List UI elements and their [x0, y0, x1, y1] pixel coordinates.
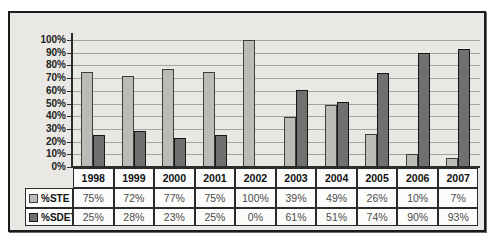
value-cell-ste-1998: 75% [73, 188, 114, 208]
year-cell-1998: 1998 [73, 168, 114, 188]
bar-sdet-2004 [337, 102, 349, 167]
value-cell-ste-1999: 72% [114, 188, 155, 208]
bar-sdet-2001 [215, 135, 227, 167]
legend-swatch-ste [29, 194, 38, 203]
bar-sdet-2006 [418, 53, 430, 167]
bar-sdet-2000 [174, 138, 186, 167]
bar-sdet-2005 [377, 73, 389, 167]
year-cell-1999: 1999 [114, 168, 155, 188]
value-cell-sdet-2005: 74% [357, 208, 398, 226]
y-tick-label: 20% [18, 136, 66, 148]
legend-label: %SDET [41, 212, 73, 223]
legend-label: %STE [41, 193, 69, 204]
bar-ste-1999 [122, 76, 134, 167]
bar-ste-2002 [243, 40, 255, 167]
y-axis-line [71, 33, 73, 168]
bar-ste-2003 [284, 117, 296, 167]
y-tick-label: 10% [18, 148, 66, 160]
value-cell-sdet-2002: 0% [235, 208, 276, 226]
year-cell-2002: 2002 [235, 168, 276, 188]
year-cell-2004: 2004 [316, 168, 357, 188]
year-cell-2001: 2001 [195, 168, 236, 188]
year-cell-2005: 2005 [357, 168, 398, 188]
y-tick-label: 60% [18, 85, 66, 97]
legend-swatch-sdet [29, 213, 38, 222]
value-cell-sdet-2007: 93% [438, 208, 479, 226]
year-cell-2003: 2003 [276, 168, 317, 188]
chart-frame: 100%90%80%70%60%50%40%30%20%10%0%1998199… [8, 11, 486, 232]
value-cell-ste-2000: 77% [154, 188, 195, 208]
gridline [72, 40, 480, 41]
year-cell-2006: 2006 [397, 168, 438, 188]
y-tick-label: 40% [18, 110, 66, 122]
bar-sdet-1998 [93, 135, 105, 167]
value-cell-sdet-1998: 25% [73, 208, 114, 226]
bar-ste-2001 [203, 72, 215, 167]
value-cell-ste-2001: 75% [195, 188, 236, 208]
scanned-excel-chart: 100%90%80%70%60%50%40%30%20%10%0%1998199… [0, 0, 497, 245]
y-tick-label: 50% [18, 98, 66, 110]
y-tick-label: 90% [18, 47, 66, 59]
value-cell-sdet-2004: 51% [316, 208, 357, 226]
value-cell-ste-2002: 100% [235, 188, 276, 208]
value-cell-ste-2007: 7% [438, 188, 479, 208]
y-tick-label: 100% [18, 34, 66, 46]
value-cell-sdet-2003: 61% [276, 208, 317, 226]
y-tick-label: 70% [18, 72, 66, 84]
value-cell-sdet-2000: 23% [154, 208, 195, 226]
value-cell-sdet-2006: 90% [397, 208, 438, 226]
year-cell-2000: 2000 [154, 168, 195, 188]
bar-sdet-2007 [458, 49, 470, 167]
bar-ste-1998 [81, 72, 93, 167]
legend-ste: %STE [25, 188, 73, 208]
y-tick-label: 80% [18, 59, 66, 71]
value-cell-ste-2005: 26% [357, 188, 398, 208]
bar-sdet-2003 [296, 90, 308, 167]
y-tick-label: 30% [18, 123, 66, 135]
bar-ste-2000 [162, 69, 174, 167]
value-cell-ste-2003: 39% [276, 188, 317, 208]
bar-ste-2005 [365, 134, 377, 167]
value-cell-sdet-1999: 28% [114, 208, 155, 226]
value-cell-ste-2004: 49% [316, 188, 357, 208]
value-cell-ste-2006: 10% [397, 188, 438, 208]
bar-sdet-1999 [134, 131, 146, 167]
legend-sdet: %SDET [25, 208, 73, 226]
value-cell-sdet-2001: 25% [195, 208, 236, 226]
y-tick-label: 0% [18, 161, 66, 173]
bar-ste-2004 [325, 105, 337, 167]
year-cell-2007: 2007 [438, 168, 479, 188]
